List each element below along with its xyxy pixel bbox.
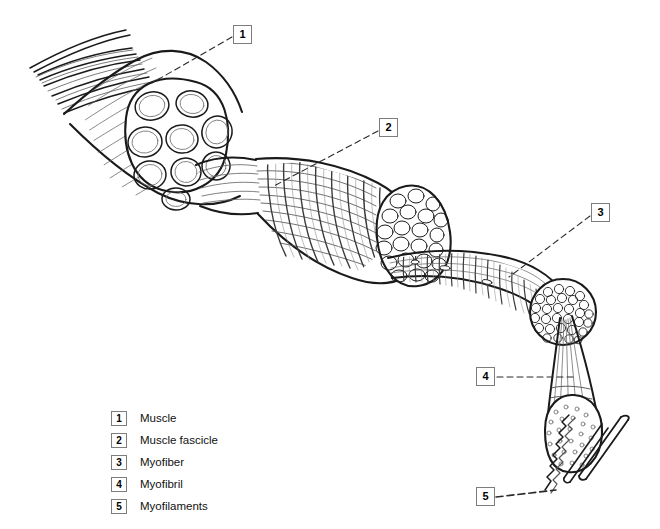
- legend-label-1: Muscle: [140, 412, 176, 424]
- legend-key-5: 5: [111, 499, 127, 514]
- legend-item-muscle: 1 Muscle: [111, 407, 218, 429]
- legend-key-4: 4: [111, 477, 127, 492]
- legend-key-1: 1: [111, 411, 127, 426]
- muscle-hierarchy-illustration: [0, 0, 660, 529]
- leader-line-3: [509, 216, 590, 277]
- leader-line-5: [496, 490, 556, 497]
- callout-3[interactable]: 3: [591, 203, 610, 222]
- legend-item-myofilaments: 5 Myofilaments: [111, 495, 218, 517]
- legend-label-4: Myofibril: [140, 478, 183, 490]
- legend-label-3: Myofiber: [140, 456, 184, 468]
- legend-item-myofibril: 4 Myofibril: [111, 473, 218, 495]
- callout-2[interactable]: 2: [379, 118, 398, 137]
- fascicle-longitudinal-fibers: [256, 162, 380, 271]
- legend-label-2: Muscle fascicle: [140, 434, 218, 446]
- callout-1[interactable]: 1: [233, 25, 252, 44]
- myofibril-cross-section-outline: [545, 395, 602, 472]
- legend-label-5: Myofilaments: [140, 500, 208, 512]
- leader-line-1: [152, 37, 232, 83]
- diagram-canvas: 1 2 3 4 5 1 Muscle 2 Muscle fascicle 3 M…: [0, 0, 660, 529]
- callout-4[interactable]: 4: [476, 367, 495, 386]
- callout-5[interactable]: 5: [476, 487, 495, 506]
- legend-key-3: 3: [111, 455, 127, 470]
- fascicle-emerge-bottom: [200, 206, 258, 214]
- legend: 1 Muscle 2 Muscle fascicle 3 Myofiber 4 …: [111, 407, 218, 517]
- legend-item-myofiber: 3 Myofiber: [111, 451, 218, 473]
- legend-item-muscle-fascicle: 2 Muscle fascicle: [111, 429, 218, 451]
- legend-key-2: 2: [111, 433, 127, 448]
